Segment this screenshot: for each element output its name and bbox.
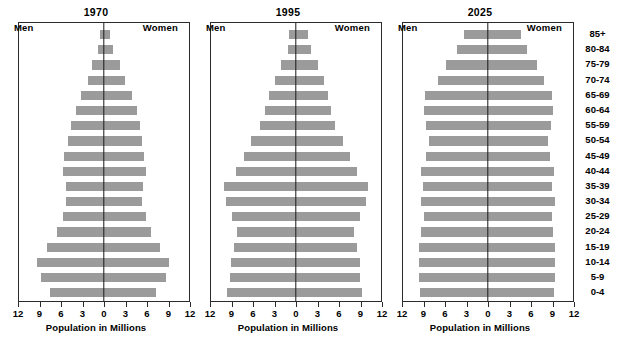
x-axis-tick-label: 0 [485, 308, 490, 319]
x-axis-tick-label: 9 [166, 308, 171, 319]
bar-women [488, 212, 552, 221]
age-group-label: 15-19 [578, 239, 617, 254]
plot-area [18, 22, 190, 302]
bar-women [296, 212, 360, 221]
women-half [488, 273, 573, 282]
men-half [211, 45, 296, 54]
bar-women [296, 167, 357, 176]
bar-women [104, 258, 169, 267]
bar-women [104, 197, 142, 206]
women-half [104, 288, 189, 297]
men-half [211, 167, 296, 176]
bar-women [488, 288, 554, 297]
bar-women [488, 91, 552, 100]
women-half [296, 60, 381, 69]
x-axis-tick [169, 302, 170, 307]
bar-men [66, 182, 104, 191]
women-half [104, 212, 189, 221]
bar-men [237, 227, 297, 236]
bar-women [104, 227, 151, 236]
women-half [488, 91, 573, 100]
bar-men [419, 258, 488, 267]
women-half [488, 243, 573, 252]
men-half [403, 227, 488, 236]
zero-axis-line [103, 23, 104, 301]
men-half [19, 243, 104, 252]
x-axis-tick [232, 302, 233, 307]
x-axis-tick-label: 6 [336, 308, 341, 319]
x-axis-tick-label: 6 [250, 308, 255, 319]
men-half [403, 167, 488, 176]
women-half [104, 258, 189, 267]
women-half [296, 258, 381, 267]
bar-men [421, 197, 488, 206]
age-group-label: 45-49 [578, 148, 617, 163]
age-group-label: 10-14 [578, 254, 617, 269]
bar-women [488, 227, 553, 236]
men-half [211, 182, 296, 191]
bar-men [76, 106, 104, 115]
age-group-label: 5-9 [578, 269, 617, 284]
x-axis-tick [361, 302, 362, 307]
men-half [211, 152, 296, 161]
x-axis-tick [488, 302, 489, 307]
men-half [19, 258, 104, 267]
bar-men [420, 288, 488, 297]
age-group-label: 35-39 [578, 178, 617, 193]
women-half [488, 60, 573, 69]
bar-men [81, 91, 104, 100]
bar-women [488, 30, 521, 39]
bar-men [231, 258, 296, 267]
men-half [403, 45, 488, 54]
women-half [488, 182, 573, 191]
women-half [296, 273, 381, 282]
plot-area [402, 22, 574, 302]
women-half [104, 45, 189, 54]
women-half [104, 152, 189, 161]
women-half [104, 121, 189, 130]
bar-women [296, 106, 331, 115]
x-axis-tick-label: 6 [144, 308, 149, 319]
bar-women [104, 212, 146, 221]
women-half [488, 121, 573, 130]
x-axis-tick [402, 302, 403, 307]
women-half [296, 45, 381, 54]
x-axis-tick [424, 302, 425, 307]
bar-men [234, 243, 296, 252]
age-group-label: 60-64 [578, 102, 617, 117]
bar-women [296, 243, 357, 252]
bar-women [104, 288, 156, 297]
bar-men [92, 60, 104, 69]
x-axis-tick-label: 12 [13, 308, 24, 319]
women-half [296, 227, 381, 236]
bar-women [296, 182, 368, 191]
men-half [403, 121, 488, 130]
bar-women [296, 152, 350, 161]
x-axis-tick-label: 9 [37, 308, 42, 319]
women-half [488, 106, 573, 115]
x-axis-tick-label: 9 [550, 308, 555, 319]
women-half [296, 121, 381, 130]
men-half [211, 212, 296, 221]
x-axis-tick [339, 302, 340, 307]
bar-men [63, 167, 104, 176]
men-half [403, 136, 488, 145]
women-half [104, 76, 189, 85]
women-half [104, 91, 189, 100]
women-label: Women [527, 22, 562, 33]
bar-men [244, 152, 296, 161]
men-half [19, 288, 104, 297]
bar-men [421, 227, 488, 236]
bar-women [488, 45, 527, 54]
age-group-label: 0-4 [578, 284, 617, 299]
women-half [488, 136, 573, 145]
bar-men [425, 91, 488, 100]
age-group-label: 20-24 [578, 223, 617, 238]
bar-men [251, 136, 296, 145]
women-half [488, 45, 573, 54]
bar-women [104, 30, 110, 39]
x-axis: 12963036912 [18, 302, 190, 303]
bar-men [281, 60, 296, 69]
women-half [296, 197, 381, 206]
bar-men [421, 167, 488, 176]
